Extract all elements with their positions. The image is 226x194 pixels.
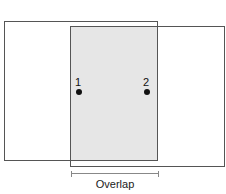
point-2-dot [144, 89, 150, 95]
overlap-bracket [71, 173, 159, 174]
point-1-dot [76, 89, 82, 95]
overlap-caption: Overlap [71, 178, 159, 190]
right-frame [70, 26, 225, 167]
point-1-label: 1 [75, 77, 81, 88]
point-2-label: 2 [143, 77, 149, 88]
